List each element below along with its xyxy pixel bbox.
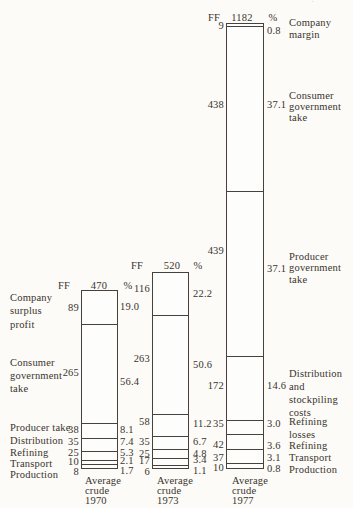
segment-ff-value: 9 [182, 20, 224, 31]
segment-pct-value: 3.6 [267, 440, 281, 451]
percent-unit-label: % [194, 260, 203, 271]
bar-segment-company-surplus-profit [153, 273, 188, 317]
category-label-right: government [289, 101, 341, 112]
segment-ff-value: 6 [108, 466, 150, 477]
segment-ff-value: 116 [108, 283, 150, 294]
bar-segment-consumer-government-take [82, 325, 117, 425]
bar-segment-consumer-government-take [227, 27, 263, 192]
segment-pct-value: 56.4 [120, 376, 139, 387]
segment-ff-value: 35 [108, 436, 150, 447]
bar-total-value: 520 [164, 260, 180, 271]
currency-unit-label: FF [131, 260, 143, 271]
stacked-bar-1977 [226, 23, 264, 469]
segment-pct-value: 0.8 [267, 25, 281, 36]
bar-axis-label: 1977 [232, 495, 254, 506]
bar-segment-production [227, 464, 263, 468]
bar-axis-label: 1973 [157, 495, 179, 506]
segment-ff-value: 438 [182, 99, 224, 110]
category-label-right: Refining [289, 440, 327, 451]
category-label-left: Consumer [10, 357, 55, 368]
category-label-right: government [289, 262, 341, 273]
bar-segment-producer-government-take [227, 192, 263, 357]
category-label-right: margin [289, 29, 320, 40]
category-label-right: stockpiling [289, 394, 338, 405]
percent-unit-label: % [269, 12, 278, 23]
category-label-left: Transport [10, 458, 52, 469]
segment-pct-value: 37.1 [267, 99, 286, 110]
category-label-right: Company [289, 17, 331, 28]
segment-ff-value: 35 [182, 418, 224, 429]
category-label-left: Company [10, 292, 52, 303]
bar-total-value: 1182 [231, 12, 252, 23]
segment-pct-value: 14.6 [267, 380, 286, 391]
category-label-left: Refining [10, 447, 48, 458]
category-label-right: and [289, 381, 305, 392]
bar-segment-refining-losses [227, 421, 263, 434]
page-edge-artifact: ·˙ [311, 0, 318, 6]
chart-stage: ·˙ FF470%8919.026556.4388.1357.4255.3102… [0, 0, 353, 508]
bar-segment-transport [227, 450, 263, 464]
category-label-right: take [289, 274, 307, 285]
segment-ff-value: 37 [182, 452, 224, 463]
segment-pct-value: 3.1 [267, 452, 281, 463]
category-label-right: Consumer [289, 90, 334, 101]
category-label-right: Producer [289, 251, 329, 262]
segment-ff-value: 263 [108, 353, 150, 364]
segment-ff-value: 42 [182, 439, 224, 450]
segment-ff-value: 17 [108, 455, 150, 466]
category-label-right: take [289, 112, 307, 123]
bar-segment-company-surplus-profit [82, 291, 117, 324]
category-label-left: take [10, 383, 28, 394]
category-label-left: government [10, 370, 62, 381]
bar-total-value: 470 [91, 280, 107, 291]
category-label-right: Refining [289, 416, 327, 427]
segment-pct-value: 37.1 [267, 263, 286, 274]
category-label-right: Distribution [289, 368, 342, 379]
category-label-left: Producer take [10, 422, 71, 433]
segment-pct-value: 3.0 [267, 418, 281, 429]
segment-ff-value: 439 [182, 245, 224, 256]
segment-pct-value: 22.2 [193, 288, 212, 299]
segment-pct-value: 0.8 [267, 463, 281, 474]
segment-ff-value: 58 [108, 416, 150, 427]
bar-segment-refining [227, 435, 263, 451]
category-label-right: Production [289, 464, 337, 475]
category-label-left: Distribution [10, 435, 63, 446]
category-label-right: losses [289, 429, 315, 440]
segment-pct-value: 50.6 [193, 359, 212, 370]
segment-ff-value: 89 [37, 302, 79, 313]
category-label-left: surplus [10, 305, 42, 316]
segment-ff-value: 10 [182, 462, 224, 473]
category-label-left: profit [10, 319, 35, 330]
bar-segment-consumer-government-take [153, 316, 188, 415]
category-label-right: Transport [289, 452, 331, 463]
bar-axis-label: 1970 [85, 495, 107, 506]
currency-unit-label: FF [58, 280, 70, 291]
segment-ff-value: 172 [182, 380, 224, 391]
category-label-left: Production [10, 469, 58, 480]
segment-pct-value: 19.0 [120, 301, 139, 312]
bar-segment-distribution-and-stockpiling-costs [227, 357, 263, 422]
